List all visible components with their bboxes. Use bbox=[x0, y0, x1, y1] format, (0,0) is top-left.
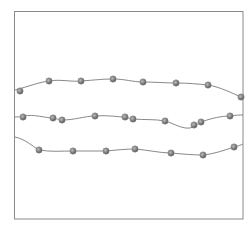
bead bbox=[92, 113, 98, 119]
bead bbox=[191, 122, 197, 128]
bead bbox=[205, 82, 211, 88]
bead bbox=[110, 76, 116, 82]
strand-bottom bbox=[15, 137, 243, 158]
bead bbox=[162, 118, 168, 124]
figure-canvas bbox=[0, 0, 251, 227]
bead bbox=[17, 88, 23, 94]
bead bbox=[140, 79, 146, 85]
strand-line bbox=[15, 115, 243, 128]
bead bbox=[46, 78, 52, 84]
bead bbox=[20, 114, 26, 120]
figure-frame bbox=[15, 12, 244, 220]
strand-top bbox=[15, 76, 244, 100]
bead bbox=[59, 117, 65, 123]
bead bbox=[50, 115, 56, 121]
bead bbox=[130, 116, 136, 122]
bead bbox=[168, 150, 174, 156]
strands-group bbox=[15, 76, 244, 158]
bead bbox=[231, 144, 237, 150]
bead bbox=[103, 148, 109, 154]
bead bbox=[198, 119, 204, 125]
bead-string-figure bbox=[0, 0, 251, 227]
bead bbox=[36, 147, 42, 153]
strand-middle bbox=[15, 113, 243, 128]
bead bbox=[78, 78, 84, 84]
bead bbox=[227, 113, 233, 119]
bead bbox=[122, 114, 128, 120]
bead bbox=[200, 152, 206, 158]
bead bbox=[70, 148, 76, 154]
bead bbox=[173, 80, 179, 86]
bead bbox=[132, 146, 138, 152]
strand-line bbox=[15, 137, 243, 155]
bead bbox=[238, 94, 244, 100]
